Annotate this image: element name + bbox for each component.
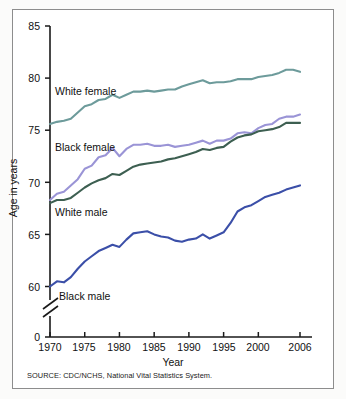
- y-axis-title: Age in years: [7, 148, 19, 228]
- xtick-label-1990: 1990: [169, 341, 209, 353]
- xtick-label-2006: 2006: [280, 341, 320, 353]
- series-line-black-male: [50, 185, 300, 286]
- xtick-label-1975: 1975: [64, 341, 104, 353]
- xtick-label-1985: 1985: [134, 341, 174, 353]
- series-layer: [50, 70, 300, 287]
- series-label-white-female: White female: [55, 85, 116, 97]
- ytick-label-75: 75: [14, 124, 40, 136]
- ytick-label-65: 65: [14, 229, 40, 241]
- figure-canvas: 85 80 75 70 65 60 0 1970 1975 1980 1985 …: [0, 0, 346, 399]
- xtick-label-2000: 2000: [238, 341, 278, 353]
- source-note: SOURCE: CDC/NCHS, National Vital Statist…: [27, 371, 212, 380]
- line-chart-plot: [0, 0, 346, 399]
- series-label-black-male: Black male: [59, 290, 110, 302]
- ytick-label-85: 85: [14, 20, 40, 32]
- series-label-white-male: White male: [55, 206, 108, 218]
- xtick-label-1980: 1980: [99, 341, 139, 353]
- x-axis-title: Year: [0, 356, 346, 368]
- ytick-label-60: 60: [14, 281, 40, 293]
- series-label-black-female: Black female: [55, 141, 115, 153]
- series-line-white-male: [50, 123, 300, 203]
- ytick-label-80: 80: [14, 72, 40, 84]
